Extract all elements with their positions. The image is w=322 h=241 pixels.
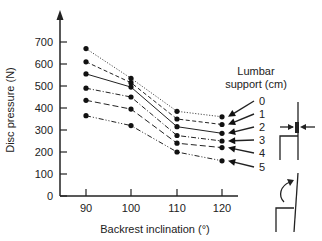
data-point [174, 149, 179, 154]
data-point [128, 123, 133, 128]
series-line [86, 74, 222, 133]
y-tick-label: 400 [35, 102, 53, 114]
data-point [219, 114, 224, 119]
legend-items: 012345 [228, 95, 265, 173]
data-point [219, 122, 224, 127]
line-chart: 0100200300400500600700 90100110120 Disc … [0, 0, 322, 241]
data-point [83, 113, 88, 118]
y-tick-label: 300 [35, 124, 53, 136]
data-point [174, 141, 179, 146]
data-point [174, 116, 179, 121]
data-point [219, 145, 224, 150]
data-point [83, 98, 88, 103]
x-tick-label: 90 [80, 202, 92, 214]
y-tick-label: 600 [35, 58, 53, 70]
y-tick-label: 0 [47, 190, 53, 202]
figure: 0100200300400500600700 90100110120 Disc … [0, 0, 322, 241]
legend-title-line1: Lumbar [237, 65, 275, 77]
y-tick-label: 700 [35, 36, 53, 48]
data-point [128, 94, 133, 99]
data-point [174, 109, 179, 114]
x-ticks: 90100110120 [80, 189, 231, 214]
x-tick-label: 110 [168, 202, 186, 214]
y-tick-label: 100 [35, 168, 53, 180]
data-point [83, 46, 88, 51]
series-0 [83, 46, 224, 119]
data-point [219, 138, 224, 143]
legend-title-line2: support (cm) [225, 78, 287, 90]
y-ticks: 0100200300400500600700 [35, 36, 67, 202]
arrow-head-icon [228, 159, 236, 166]
data-point [128, 85, 133, 90]
series-line [86, 62, 222, 125]
legend-label: 4 [259, 147, 265, 159]
data-point [219, 131, 224, 136]
legend-label: 2 [259, 121, 265, 133]
x-tick-label: 120 [213, 202, 231, 214]
legend-label: 5 [259, 161, 265, 173]
arrow-head-icon [228, 146, 236, 153]
legend-arrow [233, 162, 254, 167]
legend: Lumbar support (cm) 012345 [225, 65, 287, 173]
arrow-head-icon [228, 137, 235, 144]
data-point [83, 59, 88, 64]
x-tick-label: 100 [122, 202, 140, 214]
data-point [83, 86, 88, 91]
data-point [83, 71, 88, 76]
legend-label: 0 [259, 95, 265, 107]
series-3 [83, 86, 224, 144]
legend-arrow [233, 114, 254, 123]
series-4 [83, 98, 224, 150]
legend-arrow [233, 149, 254, 153]
series-1 [83, 59, 224, 127]
arrow-head-icon [228, 128, 236, 135]
y-tick-label: 500 [35, 80, 53, 92]
data-point [174, 124, 179, 129]
backrest-inclination-diagram [276, 173, 298, 232]
lumbar-support-diagram [280, 102, 315, 160]
legend-arrow [233, 140, 254, 141]
series-group [83, 46, 224, 163]
x-axis-label: Backrest inclination (°) [100, 223, 210, 235]
legend-label: 3 [259, 134, 265, 146]
axes [57, 10, 239, 196]
legend-label: 1 [259, 108, 265, 120]
y-axis-arrow-icon [57, 10, 64, 20]
legend-arrow [233, 127, 254, 132]
y-tick-label: 200 [35, 146, 53, 158]
data-point [128, 107, 133, 112]
y-axis-label: Disc pressure (N) [4, 67, 16, 153]
legend-arrow [233, 101, 254, 114]
data-point [174, 133, 179, 138]
data-point [219, 158, 224, 163]
